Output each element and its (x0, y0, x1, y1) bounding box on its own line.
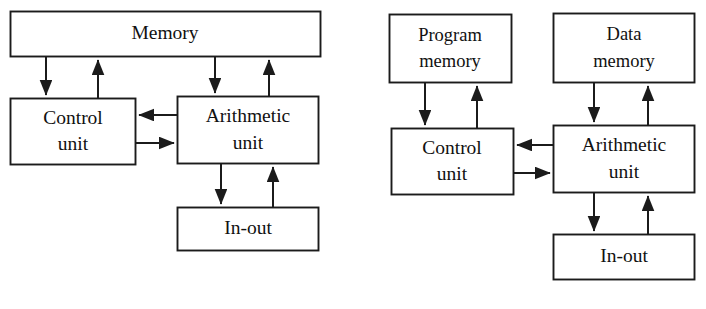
box-in-out-left-label: In-out (224, 217, 272, 238)
box-control-unit-left-label-line2: unit (58, 133, 89, 154)
box-control-unit-left-label-line1: Control (43, 107, 103, 128)
box-control-unit-right-label-line2: unit (437, 163, 468, 184)
box-arithmetic-unit-right-label-line2: unit (609, 161, 640, 182)
box-in-out-right-label: In-out (600, 245, 648, 266)
box-arithmetic-unit-left-label-line2: unit (233, 132, 264, 153)
box-program-memory[interactable]: Program memory (390, 15, 512, 83)
box-in-out-left[interactable]: In-out (178, 208, 319, 251)
box-program-memory-label-line2: memory (419, 51, 481, 71)
box-data-memory-label-line2: memory (593, 51, 655, 71)
box-memory[interactable]: Memory (11, 12, 321, 57)
box-arithmetic-unit-right-label-line1: Arithmetic (582, 134, 667, 155)
box-memory-label: Memory (131, 22, 198, 43)
box-data-memory-label-line1: Data (607, 24, 642, 44)
box-arithmetic-unit-right[interactable]: Arithmetic unit (554, 126, 695, 193)
box-data-memory[interactable]: Data memory (554, 14, 695, 83)
figure-canvas: Memory Control unit Arithmetic unit In-o… (0, 0, 706, 309)
diagram-von-neumann: Memory Control unit Arithmetic unit In-o… (0, 0, 706, 309)
box-in-out-right[interactable]: In-out (554, 235, 695, 280)
box-control-unit-right[interactable]: Control unit (392, 129, 514, 195)
box-arithmetic-unit-left-label-line1: Arithmetic (206, 105, 291, 126)
box-arithmetic-unit-left[interactable]: Arithmetic unit (178, 97, 319, 164)
box-program-memory-label-line1: Program (418, 25, 482, 45)
box-control-unit-left[interactable]: Control unit (11, 99, 136, 165)
box-control-unit-right-label-line1: Control (422, 137, 482, 158)
